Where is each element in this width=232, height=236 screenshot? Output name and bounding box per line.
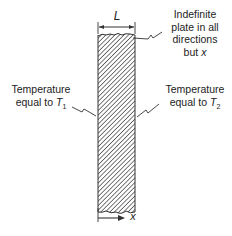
left-boundary-label: Temperature equal to T1 [6, 83, 76, 113]
plate [98, 30, 135, 216]
dimension-arrow-L [98, 22, 135, 34]
dimension-label: L [110, 10, 124, 23]
plate-note: Indefinite plate in all directions but x [158, 8, 232, 58]
leader-right [137, 104, 159, 117]
axis-label: x [128, 210, 138, 223]
right-boundary-label: Temperature equal to T2 [158, 83, 232, 113]
